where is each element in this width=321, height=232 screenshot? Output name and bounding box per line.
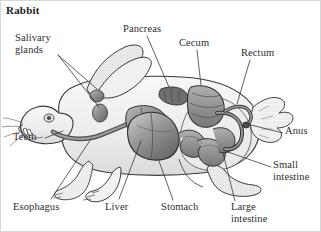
label-anus: Anus (285, 125, 308, 137)
label-liver: Liver (105, 201, 128, 213)
label-pancreas: Pancreas (123, 23, 161, 35)
label-large-intestine: Large intestine (231, 201, 267, 224)
label-salivary-glands: Salivary glands (15, 32, 51, 55)
label-cecum: Cecum (179, 37, 209, 49)
label-stomach: Stomach (161, 201, 198, 213)
label-small-intestine: Small intestine (273, 159, 309, 182)
label-esophagus: Esophagus (13, 201, 59, 213)
rabbit-anatomy-figure: Rabbit (0, 0, 321, 232)
label-teeth: Teeth (13, 131, 37, 143)
label-rectum: Rectum (241, 47, 274, 59)
